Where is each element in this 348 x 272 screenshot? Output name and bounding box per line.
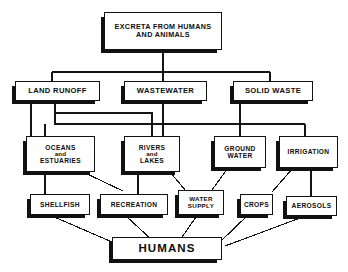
node-recreation-label: RECREATION xyxy=(111,201,158,208)
node-solid-waste-label: SOLID WASTE xyxy=(245,87,301,95)
node-wastewater-label: WASTEWATER xyxy=(137,87,194,95)
node-aerosols-label: AEROSOLS xyxy=(292,202,332,209)
node-irrigation[interactable]: IRRIGATION xyxy=(279,136,338,168)
node-solid-waste[interactable]: SOLID WASTE xyxy=(233,81,313,101)
flowchart-diagram: EXCRETA FROM HUMANS AND ANIMALS LAND RUN… xyxy=(0,0,348,272)
node-humans-label: HUMANS xyxy=(138,242,195,254)
node-ground-water-line2: WATER xyxy=(227,152,252,159)
edge-irrigation-crops xyxy=(272,168,293,192)
edge-land-runoff-rivers xyxy=(55,101,152,136)
node-recreation[interactable]: RECREATION xyxy=(100,194,168,215)
node-rivers-line3: LAKES xyxy=(140,157,164,164)
node-oceans-line2: and xyxy=(55,151,67,158)
node-land-runoff[interactable]: LAND RUNOFF xyxy=(15,81,100,101)
node-irrigation-label: IRRIGATION xyxy=(288,148,330,155)
edge-groundwater-watersupply xyxy=(212,168,228,190)
node-crops[interactable]: CROPS xyxy=(240,194,273,215)
node-ground-water-line1: GROUND xyxy=(224,145,255,152)
node-crops-label: CROPS xyxy=(244,201,269,208)
node-aerosols[interactable]: AEROSOLS xyxy=(286,196,337,216)
node-excreta-line2: AND ANIMALS xyxy=(136,31,190,39)
node-land-runoff-label: LAND RUNOFF xyxy=(28,87,87,95)
edge-aerosols-humans xyxy=(225,218,300,246)
edge-land-runoff-lower-bus xyxy=(55,101,305,124)
node-oceans-line3: ESTUARIES xyxy=(40,157,81,164)
node-ground-water[interactable]: GROUND WATER xyxy=(214,136,266,168)
edge-crops-humans xyxy=(222,217,246,240)
node-water-supply-line2: SUPPLY xyxy=(188,203,214,210)
node-humans[interactable]: HUMANS xyxy=(112,237,222,260)
node-oceans-and-estuaries[interactable]: OCEANS and ESTUARIES xyxy=(26,136,95,172)
node-excreta[interactable]: EXCRETA FROM HUMANS AND ANIMALS xyxy=(104,12,222,50)
node-rivers-line2: and xyxy=(146,151,158,158)
node-wastewater[interactable]: WASTEWATER xyxy=(124,81,207,101)
node-rivers-and-lakes[interactable]: RIVERS and LAKES xyxy=(124,136,180,172)
edge-shellfish-humans xyxy=(52,216,112,242)
node-shellfish[interactable]: SHELLFISH xyxy=(30,194,90,215)
node-shellfish-label: SHELLFISH xyxy=(40,201,80,208)
node-water-supply[interactable]: WATER SUPPLY xyxy=(178,190,224,215)
